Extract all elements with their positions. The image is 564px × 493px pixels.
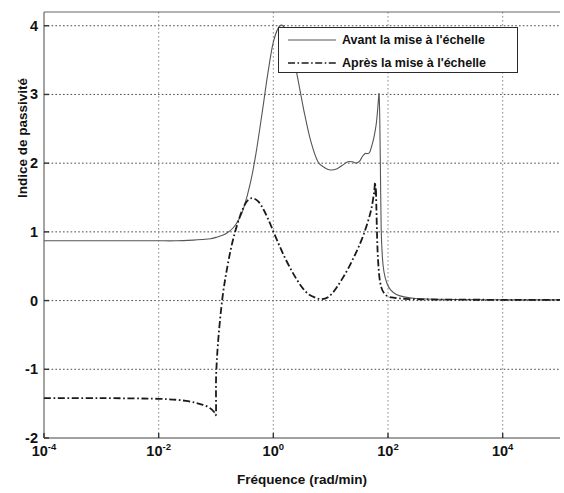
- legend-item-avant: Avant la mise à l'échelle: [279, 28, 517, 51]
- legend-item-apres: Après la mise à l'échelle: [279, 51, 517, 74]
- y-tick-label: 2: [0, 155, 38, 171]
- legend-label-avant: Avant la mise à l'échelle: [342, 33, 485, 47]
- y-tick-label: 1: [0, 224, 38, 240]
- x-tick-label: 102: [377, 443, 398, 459]
- chart-legend: Avant la mise à l'échelle Après la mise …: [278, 27, 518, 73]
- legend-swatch-dashdot: [286, 57, 338, 69]
- x-tick-label: 10-2: [146, 443, 171, 459]
- legend-swatch-solid: [286, 34, 338, 46]
- y-tick-label: 4: [0, 18, 38, 34]
- passivity-index-chart: Indice de passivité Fréquence (rad/min) …: [0, 0, 564, 493]
- x-tick-label: 100: [263, 443, 284, 459]
- x-tick-label: 104: [492, 443, 513, 459]
- y-tick-label: 3: [0, 86, 38, 102]
- y-tick-label: 0: [0, 293, 38, 309]
- x-tick-label: 10-4: [32, 443, 57, 459]
- legend-label-apres: Après la mise à l'échelle: [342, 56, 486, 70]
- y-tick-label: -1: [0, 361, 38, 377]
